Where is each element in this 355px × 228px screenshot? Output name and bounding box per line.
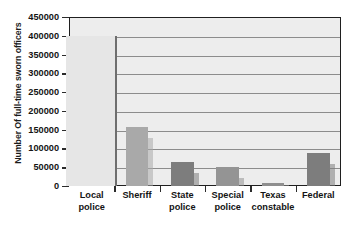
x-axis-label-line: Local bbox=[69, 190, 114, 202]
bar-face bbox=[66, 36, 117, 186]
bars-layer bbox=[69, 17, 341, 186]
y-axis-tick-label: 250000 bbox=[28, 88, 59, 97]
x-axis-category-labels: LocalpoliceSheriffStatepoliceSpecialpoli… bbox=[69, 190, 341, 226]
x-axis-label-line: police bbox=[205, 202, 250, 214]
x-axis-label-line: Special bbox=[205, 190, 250, 202]
y-axis-tick-label: 450000 bbox=[28, 13, 59, 22]
x-axis-label-line: police bbox=[69, 202, 114, 214]
bar-face bbox=[262, 183, 285, 186]
x-axis-label-line: State bbox=[160, 190, 205, 202]
x-axis-label-line: Texas bbox=[250, 190, 295, 202]
y-axis-tick-label: 100000 bbox=[28, 144, 59, 153]
bar bbox=[126, 127, 149, 186]
bar bbox=[171, 162, 194, 186]
bar-chart: Number Of full-time sworn officers 05000… bbox=[0, 0, 355, 228]
bar bbox=[66, 36, 117, 186]
y-axis-tick-label: 150000 bbox=[28, 125, 59, 134]
bar bbox=[262, 183, 285, 186]
y-axis-tick-label: 0 bbox=[54, 182, 59, 191]
bar bbox=[216, 167, 239, 186]
x-axis-label-line: Sheriff bbox=[114, 190, 159, 202]
y-axis-tick-label: 400000 bbox=[28, 31, 59, 40]
bar-face bbox=[216, 167, 239, 186]
x-axis-category-label: Texasconstable bbox=[250, 190, 295, 213]
x-axis-label-line: Federal bbox=[296, 190, 341, 202]
x-axis-category-label: Localpolice bbox=[69, 190, 114, 213]
x-axis-label-line: constable bbox=[250, 202, 295, 214]
y-axis-tick-label: 300000 bbox=[28, 69, 59, 78]
bar-face bbox=[126, 127, 149, 186]
y-axis-tick-mark bbox=[62, 17, 69, 18]
bar-face bbox=[171, 162, 194, 186]
y-axis-tick-label: 200000 bbox=[28, 106, 59, 115]
y-axis-tick-label: 50000 bbox=[33, 163, 59, 172]
x-axis-category-label: Federal bbox=[296, 190, 341, 202]
y-axis-tick-label: 350000 bbox=[28, 50, 59, 59]
x-axis-category-label: Specialpolice bbox=[205, 190, 250, 213]
bar-edge bbox=[115, 36, 117, 186]
bar-face bbox=[307, 153, 330, 186]
y-axis-tick-mark bbox=[62, 186, 69, 187]
x-axis-label-line: police bbox=[160, 202, 205, 214]
x-axis-category-label: Statepolice bbox=[160, 190, 205, 213]
bar bbox=[307, 153, 330, 186]
x-axis-category-label: Sheriff bbox=[114, 190, 159, 202]
y-axis-tick-labels: 0500001000001500002000002500003000003500… bbox=[0, 17, 62, 186]
